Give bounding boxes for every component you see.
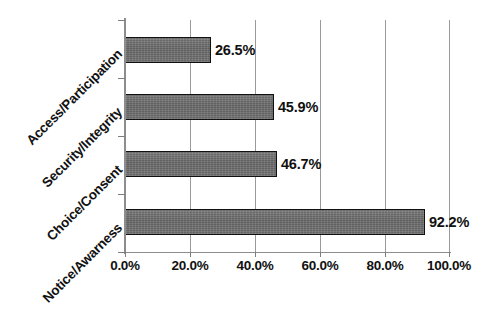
category-label-security-integrity: Security/Integrity: [23, 105, 124, 206]
x-axis-label-20: 20.0%: [172, 259, 209, 273]
x-tick-60: [320, 252, 321, 257]
data-label-access-participation: 26.5%: [215, 43, 255, 58]
data-label-security-integrity: 45.9%: [278, 100, 318, 115]
x-tick-20: [190, 252, 191, 257]
y-tick-0: [118, 20, 125, 21]
x-tick-40: [255, 252, 256, 257]
y-tick-3: [118, 194, 125, 195]
x-axis-label-0: 0.0%: [110, 259, 140, 273]
bar-choice-consent: [125, 151, 277, 177]
x-tick-80: [385, 252, 386, 257]
x-axis-label-80: 80.0%: [367, 259, 404, 273]
x-axis-label-100: 100.0%: [427, 259, 471, 273]
x-tick-100: [449, 252, 450, 257]
y-tick-1: [118, 78, 125, 79]
bar-security-integrity: [125, 94, 274, 120]
x-axis-label-40: 40.0%: [237, 259, 274, 273]
category-label-choice-consent: Choice/Consent: [23, 163, 124, 264]
plot-area: [125, 20, 450, 252]
y-tick-2: [118, 136, 125, 137]
y-tick-4: [118, 252, 125, 253]
x-axis-line: [124, 252, 451, 253]
data-label-notice-awarness: 92.2%: [429, 215, 469, 230]
bar-access-participation: [125, 37, 211, 63]
x-axis-label-60: 60.0%: [302, 259, 339, 273]
bar-notice-awarness: [125, 209, 425, 235]
data-label-choice-consent: 46.7%: [281, 157, 321, 172]
bar-chart: 26.5% 45.9% 46.7% 92.2% Access/Participa…: [0, 0, 492, 320]
x-tick-0: [125, 252, 126, 257]
category-label-access-participation: Access/Participation: [23, 47, 124, 148]
